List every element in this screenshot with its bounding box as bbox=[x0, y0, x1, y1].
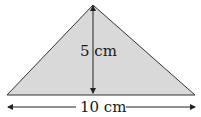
height-label: 5 cm bbox=[80, 42, 117, 60]
triangle-diagram: 5 cm 10 cm bbox=[0, 0, 201, 117]
base-label: 10 cm bbox=[80, 98, 126, 116]
